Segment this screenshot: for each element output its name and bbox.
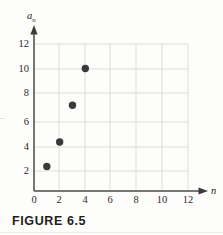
x-tick-label: 4 xyxy=(82,195,87,206)
x-tick-label: 2 xyxy=(56,195,61,206)
x-axis-arrowhead xyxy=(199,187,209,194)
data-point xyxy=(82,65,89,72)
y-axis-label: an xyxy=(27,11,36,24)
x-tick-label: 12 xyxy=(183,195,194,206)
x-axis-label: n xyxy=(211,186,216,197)
data-point xyxy=(43,163,50,170)
x-tick-label: 8 xyxy=(133,195,138,206)
y-tick-label: 2 xyxy=(24,166,29,177)
y-tick-label: 8 xyxy=(24,88,29,99)
data-point xyxy=(56,138,63,145)
y-axis-label-subscript: n xyxy=(32,16,36,24)
y-tick-label: 10 xyxy=(19,64,30,75)
y-tick-label: 12 xyxy=(19,39,30,50)
y-tick-label: 6 xyxy=(24,117,29,128)
x-tick-label: 6 xyxy=(107,195,112,206)
grid-vertical xyxy=(59,44,188,191)
data-point xyxy=(69,102,76,109)
x-tick-label: 0 xyxy=(31,195,36,206)
figure-caption: FIGURE 6.5 xyxy=(12,214,86,228)
y-tick-label: 4 xyxy=(24,142,29,153)
y-axis-arrowhead xyxy=(30,25,37,35)
data-points xyxy=(43,65,89,170)
figure-6-5: 2 4 6 8 10 12 0 2 4 6 8 10 12 an n FIGUR… xyxy=(0,0,223,235)
grid-horizontal xyxy=(34,44,188,171)
x-tick-label: 10 xyxy=(157,195,168,206)
